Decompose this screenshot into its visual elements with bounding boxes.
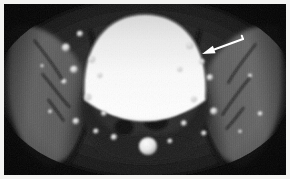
figure-container xyxy=(0,0,290,179)
mri-scan-frame xyxy=(4,4,286,175)
film-grain xyxy=(4,4,286,175)
mri-scan-image xyxy=(4,4,286,175)
